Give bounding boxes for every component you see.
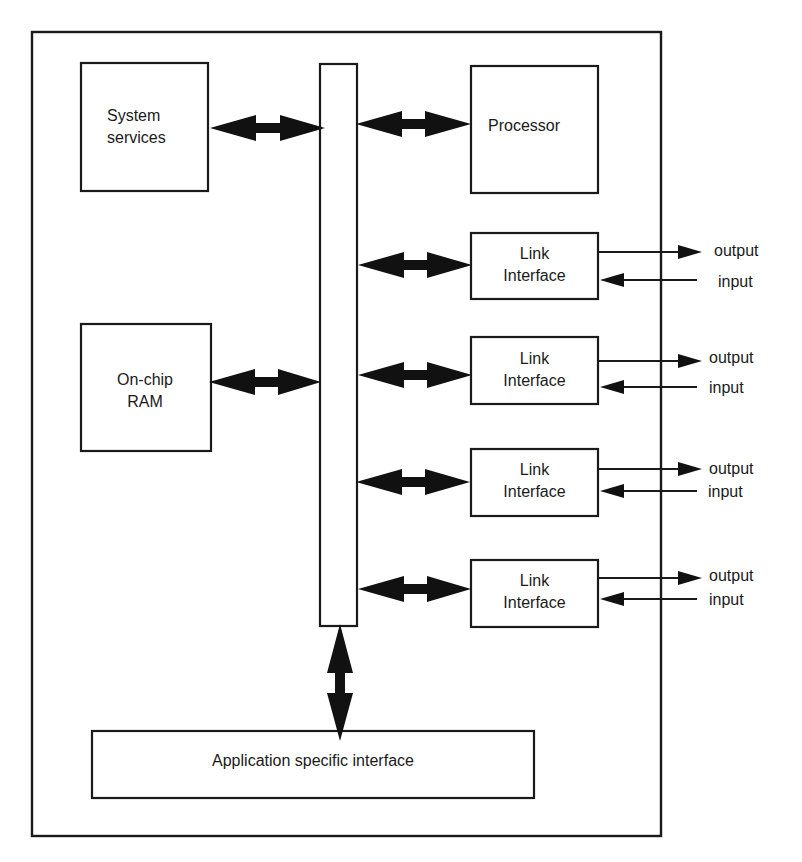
arrow-left-icon bbox=[600, 273, 624, 287]
internal-bus-block bbox=[320, 64, 357, 626]
link-interface-label-2: Link Interface bbox=[471, 348, 598, 392]
system-services-line2: services bbox=[107, 127, 166, 149]
link-label-line1: Link bbox=[471, 243, 598, 265]
on-chip-ram-label: On-chip RAM bbox=[100, 369, 190, 413]
arrow-right-icon bbox=[678, 462, 702, 476]
link-interface-label-1: Link Interface bbox=[471, 243, 598, 287]
bidirectional-arrow-icon bbox=[210, 115, 325, 141]
system-services-label: System services bbox=[107, 105, 166, 149]
input-label-4: input bbox=[709, 589, 744, 611]
link-label-line1: Link bbox=[471, 459, 598, 481]
link-label-line2: Interface bbox=[471, 265, 598, 287]
link-label-line2: Interface bbox=[471, 481, 598, 503]
bidirectional-arrow-icon bbox=[358, 362, 472, 388]
link-interface-label-4: Link Interface bbox=[471, 570, 598, 614]
output-label-2: output bbox=[709, 347, 753, 369]
arrow-left-icon bbox=[600, 380, 624, 394]
input-label-1: input bbox=[718, 271, 753, 293]
link-label-line2: Interface bbox=[471, 370, 598, 392]
arrow-left-icon bbox=[600, 592, 624, 606]
bidirectional-arrow-icon bbox=[356, 469, 470, 495]
link-label-line2: Interface bbox=[471, 592, 598, 614]
arrow-left-icon bbox=[600, 484, 624, 498]
system-services-line1: System bbox=[107, 105, 166, 127]
arrow-right-icon bbox=[678, 571, 702, 585]
arrow-right-icon bbox=[678, 354, 702, 368]
bidirectional-arrow-icon bbox=[358, 252, 472, 278]
bidirectional-arrow-icon bbox=[209, 369, 321, 395]
output-label-4: output bbox=[709, 565, 753, 587]
output-label-1: output bbox=[714, 240, 758, 262]
input-label-3: input bbox=[708, 481, 743, 503]
bidirectional-arrow-icon bbox=[358, 576, 471, 602]
on-chip-ram-line2: RAM bbox=[100, 391, 190, 413]
processor-label: Processor bbox=[488, 115, 560, 137]
bidirectional-arrow-icon bbox=[327, 624, 353, 741]
output-label-3: output bbox=[709, 458, 753, 480]
on-chip-ram-line1: On-chip bbox=[100, 369, 190, 391]
link-label-line1: Link bbox=[471, 570, 598, 592]
bidirectional-arrow-icon bbox=[356, 111, 471, 137]
link-label-line1: Link bbox=[471, 348, 598, 370]
arrow-right-icon bbox=[678, 245, 702, 259]
link-interface-label-3: Link Interface bbox=[471, 459, 598, 503]
input-label-2: input bbox=[709, 377, 744, 399]
application-interface-label: Application specific interface bbox=[92, 750, 534, 772]
